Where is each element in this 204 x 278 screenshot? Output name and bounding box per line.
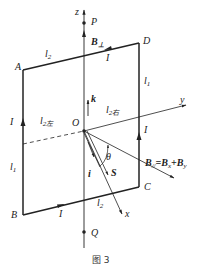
side-ad bbox=[23, 43, 139, 70]
current-arrow-top bbox=[104, 46, 112, 50]
point-q-label: Q bbox=[91, 227, 99, 238]
side-cb bbox=[23, 187, 139, 215]
current-bottom-label: I bbox=[58, 208, 63, 219]
theta-label: θ bbox=[106, 151, 111, 162]
point-c-label: C bbox=[144, 181, 151, 192]
l1-right-label: l1 bbox=[144, 75, 150, 88]
b-parallel-vector bbox=[84, 131, 174, 178]
y-axis-dashed bbox=[23, 131, 84, 144]
s-label: S bbox=[111, 167, 117, 178]
point-d-label: D bbox=[142, 35, 151, 46]
k-label: k bbox=[91, 93, 96, 104]
current-left-label: I bbox=[9, 116, 14, 127]
point-b-label: B bbox=[11, 209, 17, 220]
b-perp-label: B⊥ bbox=[90, 36, 104, 49]
point-p-label: P bbox=[90, 16, 97, 27]
i-label: i bbox=[88, 168, 91, 179]
point-a-label: A bbox=[14, 61, 22, 72]
axis-z-label: z bbox=[74, 6, 79, 17]
point-o-label: O bbox=[72, 117, 79, 128]
y-axis bbox=[84, 105, 186, 131]
l2-top-label: l2 bbox=[45, 48, 52, 61]
l2-left-half-label: l2左 bbox=[40, 115, 54, 128]
figure-caption: 图 3 bbox=[92, 255, 110, 265]
axis-x-label: x bbox=[124, 208, 130, 219]
current-top-label: I bbox=[105, 52, 110, 63]
b-perp-arrow bbox=[82, 30, 86, 37]
point-p bbox=[82, 21, 86, 25]
current-arrow-right bbox=[137, 132, 142, 140]
point-q bbox=[82, 230, 86, 234]
l1-left-label: l1 bbox=[10, 161, 16, 174]
l2-right-half-label: l2右 bbox=[106, 104, 120, 117]
b-parallel-label: B//=Bx+By bbox=[144, 157, 187, 170]
point-o bbox=[82, 129, 86, 133]
loop-diagram: z P D A B C O Q y x l2 l1 l1 l2 l2左 l2右 … bbox=[0, 0, 204, 278]
current-right-label: I bbox=[143, 124, 148, 135]
axis-y-label: y bbox=[179, 94, 185, 105]
current-arrow-left bbox=[21, 118, 26, 126]
l2-bottom-label: l2 bbox=[97, 197, 104, 210]
